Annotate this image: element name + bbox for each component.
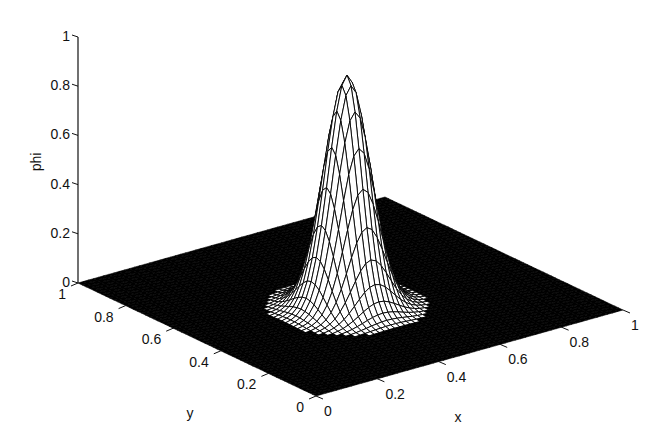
- x-tick: [316, 396, 323, 399]
- x-tick: [377, 379, 384, 382]
- x-tick-label: 0: [324, 403, 332, 419]
- z-tick: [72, 84, 78, 86]
- z-tick-label: 0.8: [51, 77, 71, 93]
- y-tick-label: 0.8: [94, 309, 114, 325]
- z-tick-label: 1: [62, 28, 70, 44]
- z-axis-label: phi: [28, 153, 44, 172]
- y-tick: [309, 396, 316, 399]
- z-tick-label: 0.4: [51, 176, 71, 192]
- z-tick: [72, 133, 78, 135]
- x-axis-label: x: [455, 409, 462, 425]
- x-tick-label: 0.8: [570, 334, 590, 350]
- y-tick-label: 0: [296, 399, 304, 415]
- y-axis-label: y: [187, 405, 194, 421]
- y-tick: [166, 328, 173, 331]
- x-tick: [439, 362, 446, 365]
- z-tick-label: 0.6: [51, 126, 71, 142]
- z-tick: [72, 183, 78, 185]
- y-tick-label: 0.4: [189, 354, 209, 370]
- surface-mesh: [78, 75, 623, 396]
- z-tick: [72, 281, 78, 283]
- x-tick-label: 1: [631, 317, 639, 333]
- y-tick: [261, 373, 268, 376]
- y-tick-label: 0.6: [142, 331, 162, 347]
- y-tick-label: 0.2: [237, 376, 257, 392]
- z-tick: [72, 35, 78, 37]
- x-tick-label: 0.6: [508, 351, 528, 367]
- y-tick: [71, 283, 78, 286]
- x-tick: [623, 310, 630, 313]
- y-tick-label: 1: [58, 286, 66, 302]
- y-tick: [119, 306, 126, 309]
- z-tick-label: 0.2: [51, 225, 71, 241]
- x-tick: [562, 327, 569, 330]
- x-tick-label: 0.4: [447, 369, 467, 385]
- surface-plot: 00.20.40.60.8100.20.40.60.8100.20.40.60.…: [0, 0, 671, 445]
- x-tick: [500, 344, 507, 347]
- x-tick-label: 0.2: [385, 386, 405, 402]
- y-tick: [214, 351, 221, 354]
- z-tick: [72, 232, 78, 234]
